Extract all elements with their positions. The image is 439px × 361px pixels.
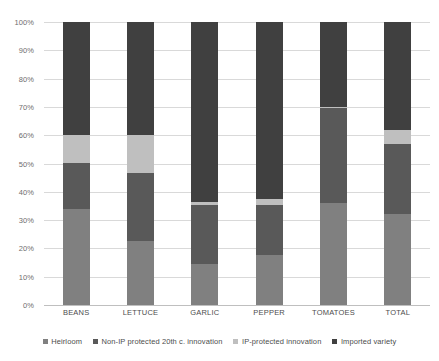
bar-stack (320, 22, 347, 305)
bar-group-lettuce[interactable] (108, 22, 172, 305)
bar-segment[interactable] (63, 22, 90, 135)
bar-segment[interactable] (127, 241, 154, 305)
x-axis-tick-label: BEANS (44, 308, 108, 317)
y-axis-tick-label: 70% (19, 102, 34, 111)
bar-stack (384, 22, 411, 305)
bar-segment[interactable] (127, 22, 154, 135)
bars-layer (44, 22, 430, 305)
bar-stack (191, 22, 218, 305)
stacked-bar-chart: 0%10%20%30%40%50%60%70%80%90%100% BEANSL… (0, 0, 439, 361)
bar-segment[interactable] (191, 205, 218, 264)
bar-segment[interactable] (127, 173, 154, 241)
bar-stack (63, 22, 90, 305)
x-axis: BEANSLETTUCEGARLICPEPPERTOMATOESTOTAL (44, 308, 430, 317)
y-axis-tick-label: 20% (19, 244, 34, 253)
bar-segment[interactable] (191, 22, 218, 202)
bar-segment[interactable] (63, 163, 90, 208)
legend-swatch-icon (332, 339, 337, 344)
y-axis-tick-label: 80% (19, 74, 34, 83)
x-axis-tick-label: GARLIC (173, 308, 237, 317)
bar-segment[interactable] (63, 209, 90, 305)
legend-swatch-icon (233, 339, 238, 344)
bar-segment[interactable] (320, 22, 347, 107)
x-axis-tick-label: PEPPER (237, 308, 301, 317)
y-axis-tick-label: 50% (19, 159, 34, 168)
bar-segment[interactable] (320, 108, 347, 203)
chart-legend: HeirloomNon-IP protected 20th c. innovat… (0, 337, 439, 346)
bar-group-tomatoes[interactable] (301, 22, 365, 305)
bar-group-pepper[interactable] (237, 22, 301, 305)
bar-segment[interactable] (63, 135, 90, 163)
y-axis-tick-label: 100% (14, 18, 34, 27)
legend-item-label: IP-protected innovation (242, 337, 321, 346)
bar-group-total[interactable] (366, 22, 430, 305)
legend-item-label: Non-IP protected 20th c. innovation (102, 337, 223, 346)
y-axis-tick-label: 60% (19, 131, 34, 140)
gridline-0pct (44, 305, 430, 306)
bar-segment[interactable] (384, 144, 411, 215)
bar-segment[interactable] (384, 22, 411, 130)
bar-segment[interactable] (320, 203, 347, 305)
x-axis-tick-label: TOTAL (366, 308, 430, 317)
legend-item[interactable]: Heirloom (43, 337, 82, 346)
y-axis-tick-label: 10% (19, 272, 34, 281)
bar-segment[interactable] (191, 264, 218, 305)
x-axis-tick-label: LETTUCE (108, 308, 172, 317)
y-axis-tick-label: 40% (19, 187, 34, 196)
legend-item-label: Imported variety (341, 337, 396, 346)
bar-group-beans[interactable] (44, 22, 108, 305)
legend-swatch-icon (43, 339, 48, 344)
bar-stack (256, 22, 283, 305)
legend-item[interactable]: Imported variety (332, 337, 396, 346)
bar-stack (127, 22, 154, 305)
bar-segment[interactable] (256, 22, 283, 199)
x-axis-tick-label: TOMATOES (301, 308, 365, 317)
bar-segment[interactable] (384, 214, 411, 305)
y-axis: 0%10%20%30%40%50%60%70%80%90%100% (0, 22, 40, 305)
y-axis-tick-label: 0% (23, 301, 34, 310)
y-axis-tick-label: 30% (19, 216, 34, 225)
bar-segment[interactable] (127, 135, 154, 173)
legend-item[interactable]: IP-protected innovation (233, 337, 321, 346)
bar-segment[interactable] (256, 255, 283, 305)
y-axis-tick-label: 90% (19, 46, 34, 55)
legend-item[interactable]: Non-IP protected 20th c. innovation (93, 337, 222, 346)
bar-segment[interactable] (384, 130, 411, 144)
legend-swatch-icon (93, 339, 98, 344)
bar-group-garlic[interactable] (173, 22, 237, 305)
bar-segment[interactable] (256, 205, 283, 256)
legend-item-label: Heirloom (51, 337, 82, 346)
